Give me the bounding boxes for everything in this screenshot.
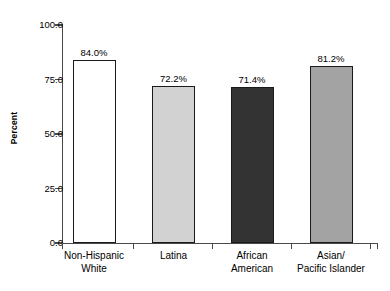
bar-value-label: 84.0% bbox=[64, 47, 124, 58]
x-axis-tick-mark bbox=[62, 243, 63, 249]
bar-value-label: 81.2% bbox=[301, 53, 361, 64]
x-axis-tick-mark bbox=[370, 243, 371, 249]
y-axis-tick-label: 100.0 bbox=[11, 19, 63, 30]
x-axis-category-label: Asian/ Pacific Islander bbox=[281, 250, 381, 275]
x-axis-line bbox=[62, 243, 377, 244]
y-axis-tick-label: 0.0 bbox=[11, 237, 63, 248]
bar bbox=[73, 60, 116, 243]
bar bbox=[310, 66, 353, 243]
x-axis-tick-mark bbox=[291, 243, 292, 249]
bar bbox=[152, 86, 195, 243]
bar-value-label: 72.2% bbox=[144, 73, 204, 84]
y-axis-tick-label: 75.0 bbox=[11, 74, 63, 85]
bar-chart: Percent 100.075.050.025.00.0 84.0%72.2%7… bbox=[0, 0, 390, 291]
bar bbox=[231, 87, 274, 243]
bar-value-label: 71.4% bbox=[222, 74, 282, 85]
x-axis-tick-mark bbox=[212, 243, 213, 249]
x-axis-tick-mark bbox=[133, 243, 134, 249]
x-axis-tick-mark bbox=[377, 243, 378, 249]
y-axis-tick-label: 25.0 bbox=[11, 183, 63, 194]
y-axis-tick-label: 50.0 bbox=[11, 128, 63, 139]
